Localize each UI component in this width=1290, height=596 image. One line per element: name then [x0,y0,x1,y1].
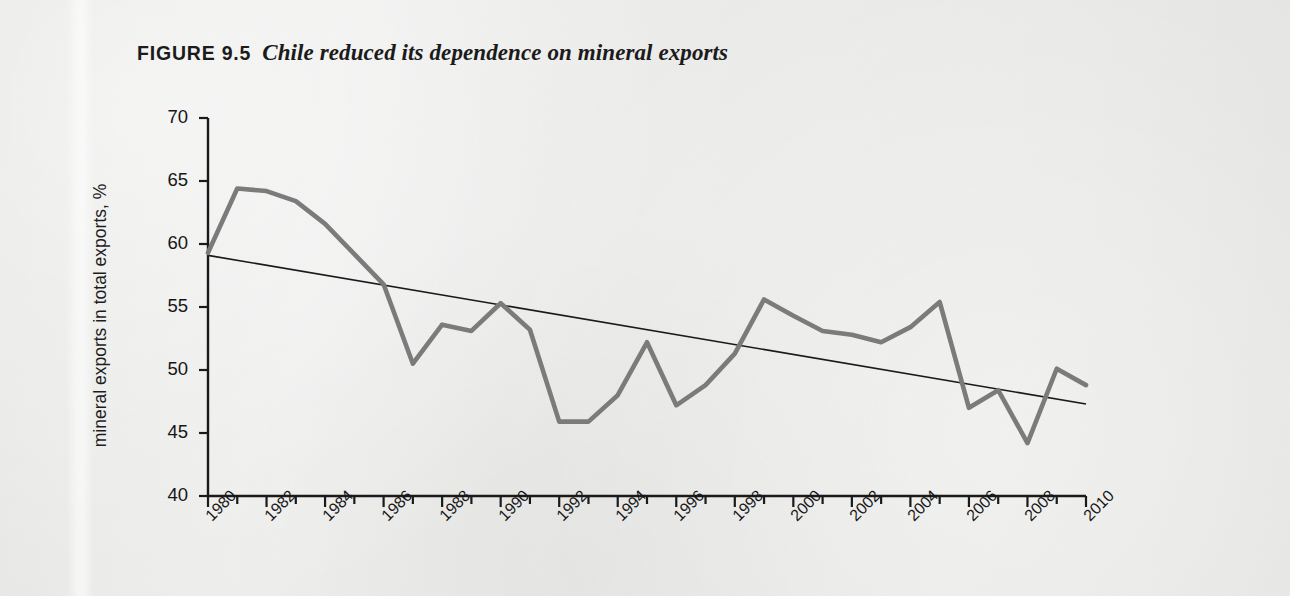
y-axis-tick-label: 45 [146,421,188,443]
y-axis-tick-label: 70 [146,106,188,128]
axes-group [199,118,1086,507]
figure-page: FIGURE 9.5Chile reduced its dependence o… [0,0,1290,596]
y-axis-tick-label: 60 [146,232,188,254]
data-line-group [208,189,1086,444]
y-axis-tick-label: 65 [146,169,188,191]
trend-line-group [208,255,1086,404]
data-series-line [208,189,1086,444]
line-chart: mineral exports in total exports, % 7065… [0,0,1290,596]
y-axis-title: mineral exports in total exports, % [90,156,111,476]
trend-line [208,255,1086,404]
y-axis-tick-label: 55 [146,295,188,317]
y-axis-tick-label: 50 [146,358,188,380]
y-axis-tick-label: 40 [146,484,188,506]
